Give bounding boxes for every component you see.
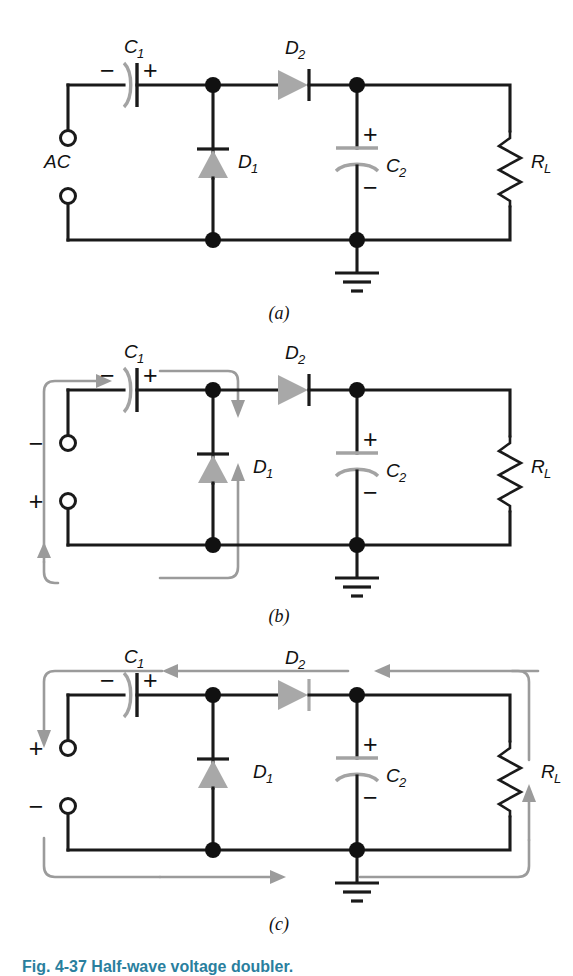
flow-arrowhead-up-right-c: [522, 784, 536, 802]
d2-triangle-b: [278, 375, 308, 405]
label-d1-sub-a: 1: [251, 161, 258, 176]
node-dot: [349, 842, 365, 858]
node-dot: [205, 232, 221, 248]
panel-b: − + C 1 − + D 2 D 1 + − C 2 R L (b): [29, 341, 552, 627]
label-c1-plus-a: +: [143, 56, 158, 84]
wire-right-bottom-a: [357, 207, 510, 240]
capacitor-c1-b: [124, 368, 137, 412]
label-rl-sub-c: L: [554, 771, 561, 786]
flow-arrow-top-leftward-c: [162, 664, 538, 678]
label-c1-plus-b: +: [143, 361, 158, 389]
node-dot: [349, 232, 365, 248]
flow-arrowhead-down-b: [231, 400, 245, 418]
d1-triangle-a: [198, 150, 228, 178]
diode-d1-c: [197, 759, 229, 788]
terminal-top-sign-c: +: [29, 734, 44, 762]
node-dot: [349, 77, 365, 93]
label-c1-minus-b: −: [100, 361, 115, 389]
label-c2-sub-c: 2: [398, 775, 407, 790]
flow-arrow-right-up-c: [512, 671, 536, 840]
label-c2-minus-a: −: [363, 173, 378, 201]
node-dot: [349, 687, 365, 703]
ac-source-terminals-c: [61, 695, 76, 850]
label-c2-sub-b: 2: [398, 470, 407, 485]
flow-arrow-source-loop-b: [37, 374, 112, 583]
node-dot: [205, 687, 221, 703]
diode-d2-c: [278, 679, 309, 711]
label-c1-b: C: [124, 341, 138, 362]
figure-half-wave-voltage-doubler: C 1 − + D 2 D 1 + − C 2 R L AC (a): [0, 0, 573, 976]
terminal-top-sign-b: −: [29, 429, 44, 457]
wire-top-right-c: [357, 695, 510, 741]
diode-d1-a: [197, 149, 229, 178]
panel-a: C 1 − + D 2 D 1 + − C 2 R L AC (a): [43, 36, 551, 324]
node-dot: [205, 842, 221, 858]
node-dot: [205, 77, 221, 93]
wire-right-bottom-c: [357, 817, 510, 850]
panel-c: + − C 1 − + D 2 D 1 + − C 2 R L (c): [29, 646, 562, 935]
diode-d2-b: [278, 374, 309, 406]
label-c1-c: C: [124, 646, 138, 667]
node-dot: [205, 382, 221, 398]
flow-arrowhead-up-b: [37, 542, 51, 558]
terminal-bottom-sign-c: −: [29, 792, 44, 820]
label-c2-minus-b: −: [363, 478, 378, 506]
terminal-top-c: [61, 741, 76, 756]
node-dot: [349, 382, 365, 398]
label-d1-sub-b: 1: [266, 466, 273, 481]
label-c2-a: C: [386, 155, 400, 176]
panel-label-b: (b): [269, 606, 290, 627]
flow-arrow-left-down-c: [37, 671, 162, 877]
label-c2-plus-a: +: [363, 120, 378, 148]
flow-arrowhead-left-top2-c: [374, 664, 390, 678]
label-d2-sub-c: 2: [297, 657, 306, 672]
label-c1-a: C: [124, 36, 138, 57]
wire-top-right-b: [357, 390, 510, 436]
node-dot: [205, 537, 221, 553]
ac-source-terminals-b: [61, 390, 76, 545]
label-d1-c: D: [253, 761, 267, 782]
label-c2-c: C: [386, 765, 400, 786]
label-d2-b: D: [285, 342, 299, 363]
figure-caption: Fig. 4-37 Half-wave voltage doubler.: [22, 958, 293, 975]
label-ac-source-a: AC: [43, 151, 71, 172]
label-d2-c: D: [285, 647, 299, 668]
wire-right-bottom-b: [357, 512, 510, 545]
label-d1-b: D: [253, 456, 267, 477]
label-rl-c: R: [541, 761, 555, 782]
d2-triangle-a: [278, 70, 308, 100]
resistor-rl-c: [499, 741, 521, 817]
panel-label-a: (a): [269, 303, 290, 324]
panel-label-c: (c): [269, 914, 289, 935]
d1-triangle-b: [198, 455, 228, 483]
terminal-bottom-c: [61, 799, 76, 814]
label-c2-b: C: [386, 460, 400, 481]
label-d1-a: D: [238, 151, 252, 172]
label-c1-minus-a: −: [100, 56, 115, 84]
label-c1-plus-c: +: [143, 666, 158, 694]
label-d2-sub-a: 2: [297, 47, 306, 62]
resistor-rl-a: [499, 131, 521, 207]
label-rl-b: R: [531, 456, 545, 477]
terminal-bottom-a: [61, 189, 76, 204]
label-c1-minus-c: −: [100, 666, 115, 694]
flow-arrow-d1-loop-b: [160, 371, 245, 578]
resistor-rl-b: [499, 436, 521, 512]
d1-triangle-c: [198, 760, 228, 788]
label-c2-plus-c: +: [363, 730, 378, 758]
flow-arrowhead-right-bottom-c: [270, 870, 286, 884]
wire-top-right-a: [357, 85, 510, 131]
label-d2-a: D: [285, 37, 299, 58]
label-rl-sub-a: L: [544, 161, 551, 176]
label-rl-a: R: [531, 151, 545, 172]
label-d1-sub-c: 1: [266, 771, 273, 786]
label-c2-sub-a: 2: [398, 165, 407, 180]
label-rl-sub-b: L: [544, 466, 551, 481]
diode-d2-a: [278, 69, 309, 101]
terminal-top-a: [61, 131, 76, 146]
capacitor-c1-a: [124, 63, 137, 107]
label-c2-minus-c: −: [363, 783, 378, 811]
node-dot: [349, 537, 365, 553]
d2-triangle-c: [278, 680, 308, 710]
diode-d1-b: [197, 454, 229, 483]
